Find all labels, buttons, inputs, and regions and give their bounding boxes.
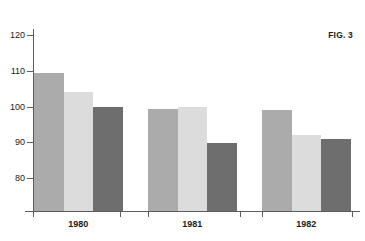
- bar-chart-figure: 8090100110120 198019811982 FIG. 3: [0, 0, 365, 241]
- bar: [207, 143, 237, 211]
- x-axis-tick: [352, 211, 353, 217]
- x-axis-tick: [33, 211, 34, 217]
- bar: [262, 110, 292, 211]
- y-axis-tick-label: 80: [15, 173, 25, 183]
- bar: [34, 73, 64, 211]
- y-axis-tick: [27, 142, 34, 143]
- figure-label: FIG. 3: [328, 30, 353, 40]
- bar: [148, 109, 178, 211]
- x-axis-group-label: 1981: [182, 219, 202, 229]
- y-axis-tick-label: 90: [15, 137, 25, 147]
- x-axis-group-label: 1982: [296, 219, 316, 229]
- x-axis-group-label: 1980: [68, 219, 88, 229]
- plot-area: 8090100110120 198019811982: [0, 0, 365, 241]
- y-axis-tick-label: 120: [10, 30, 25, 40]
- y-axis-tick: [27, 71, 34, 72]
- x-axis-tick: [148, 211, 149, 217]
- x-axis-tick: [120, 211, 121, 217]
- x-axis-line: [25, 211, 360, 212]
- bar: [64, 92, 94, 211]
- y-axis-tick: [27, 107, 34, 108]
- x-axis-tick: [240, 211, 241, 217]
- y-axis-tick-label: 100: [10, 102, 25, 112]
- bar: [93, 107, 123, 211]
- bar: [292, 135, 322, 211]
- y-axis-tick: [27, 35, 34, 36]
- x-axis-tick: [262, 211, 263, 217]
- bar: [178, 107, 208, 211]
- bar: [321, 139, 351, 211]
- y-axis-tick-label: 110: [11, 66, 25, 76]
- y-axis-tick: [27, 178, 34, 179]
